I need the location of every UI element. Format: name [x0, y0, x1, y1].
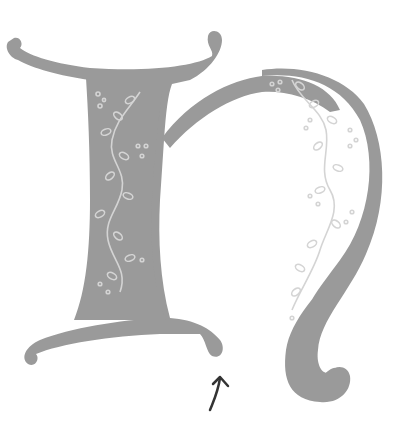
letter-arch [162, 76, 340, 148]
arrow-up-icon [210, 377, 228, 410]
illuminated-letter-h [0, 0, 398, 426]
letter-stem [7, 31, 223, 365]
